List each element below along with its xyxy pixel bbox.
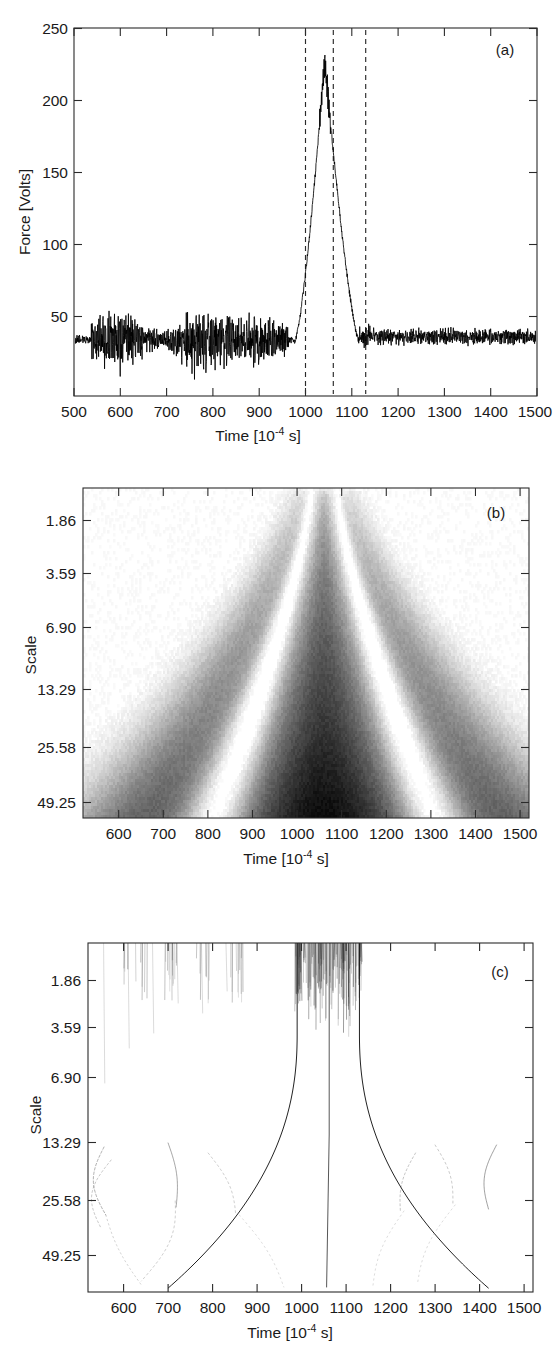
y-tick-label: 25.58	[37, 739, 76, 756]
panel-b-x-tick-labels: 600700800900100011001200130014001500	[106, 825, 538, 842]
x-tick-label: 1200	[369, 825, 404, 842]
panel-c-y-axis-title: Scale	[27, 1096, 44, 1135]
x-tick-label: 700	[155, 1299, 181, 1316]
y-tick-label: 3.59	[46, 565, 76, 582]
x-axis-title-exponent: -4	[275, 425, 284, 437]
x-tick-label: 500	[61, 403, 87, 420]
x-axis-title-exponent: -4	[307, 1322, 316, 1334]
x-tick-label: 1500	[507, 1299, 542, 1316]
panel-a-y-tick-labels: 250 200 150 100 50	[42, 20, 68, 325]
x-tick-label: 900	[240, 825, 266, 842]
y-tick-label: 13.29	[37, 681, 76, 698]
x-axis-title-tail: s]	[316, 1324, 332, 1341]
x-tick-label: 900	[244, 1299, 270, 1316]
x-tick-label: 700	[154, 403, 180, 420]
x-axis-title-main: Time [10	[215, 427, 275, 444]
y-tick-label: 250	[42, 20, 68, 37]
y-tick-label: 50	[51, 308, 69, 325]
x-tick-label: 1400	[462, 1299, 497, 1316]
x-tick-label: 1000	[280, 825, 315, 842]
y-tick-label: 49.25	[37, 794, 76, 811]
x-tick-label: 800	[200, 1299, 226, 1316]
x-axis-title-main: Time [10	[243, 850, 303, 867]
x-tick-label: 800	[200, 403, 226, 420]
x-tick-label: 1000	[284, 1299, 319, 1316]
x-tick-label: 600	[111, 1299, 137, 1316]
panel-b-x-axis-title: Time [10-4 s]	[243, 848, 328, 867]
panel-b-y-axis-title: Scale	[22, 636, 39, 675]
panel-c-svg: 1.86 3.59 6.90 13.29 25.58 49.25 6007008…	[0, 915, 556, 1363]
y-tick-label: 100	[42, 236, 68, 253]
y-tick-label: 6.90	[46, 619, 77, 636]
x-tick-label: 1300	[418, 1299, 453, 1316]
x-tick-label: 700	[150, 825, 176, 842]
y-tick-label: 200	[42, 92, 68, 109]
panel-c-y-tick-labels: 1.86 3.59 6.90 13.29 25.58 49.25	[42, 972, 81, 1264]
x-tick-label: 1100	[325, 825, 359, 842]
x-tick-label: 800	[195, 825, 221, 842]
panel-a-x-tick-labels: 500 600 700 800 900 1000 1100 1200 1300 …	[61, 403, 553, 420]
panel-b-scalogram-image	[83, 488, 530, 819]
panel-c-x-tick-labels: 600700800900100011001200130014001500	[111, 1299, 542, 1316]
panel-a-label: (a)	[496, 41, 514, 58]
x-tick-label: 1100	[329, 1299, 363, 1316]
panel-a-event-marker-lines	[306, 30, 366, 394]
x-tick-label: 1300	[414, 825, 449, 842]
panel-a-svg: 250 200 150 100 50	[0, 0, 556, 455]
panel-a-y-axis-title: Force [Volts]	[16, 169, 33, 255]
panel-a-x-axis-title: Time [10-4 s]	[215, 425, 300, 444]
x-axis-title-tail: s]	[312, 850, 328, 867]
svg-text:Time [10-4 s]: Time [10-4 s]	[243, 848, 328, 867]
x-tick-label: 1400	[458, 825, 493, 842]
y-tick-label: 49.25	[42, 1247, 81, 1264]
x-axis-title-main: Time [10	[247, 1324, 307, 1341]
x-tick-label: 600	[107, 403, 133, 420]
x-tick-label: 1200	[373, 1299, 408, 1316]
svg-text:Time [10-4 s]: Time [10-4 s]	[247, 1322, 332, 1341]
panel-c-x-axis-title: Time [10-4 s]	[247, 1322, 332, 1341]
y-tick-label: 150	[42, 164, 68, 181]
x-tick-label: 1300	[427, 403, 462, 420]
y-tick-label: 3.59	[51, 1019, 81, 1036]
x-tick-label: 1500	[518, 403, 553, 420]
svg-text:Time [10-4 s]: Time [10-4 s]	[215, 425, 300, 444]
x-tick-label: 1400	[473, 403, 508, 420]
y-tick-label: 13.29	[42, 1134, 81, 1151]
y-tick-label: 6.90	[51, 1069, 82, 1086]
x-tick-label: 1500	[503, 825, 538, 842]
x-tick-label: 600	[106, 825, 132, 842]
figure-wavelet-analysis: 250 200 150 100 50	[0, 0, 556, 1363]
panel-b-label: (b)	[487, 504, 505, 521]
panel-b-y-tick-labels: 1.86 3.59 6.90 13.29 25.58 49.25	[37, 512, 76, 811]
x-tick-label: 1000	[288, 403, 323, 420]
y-tick-label: 25.58	[42, 1192, 81, 1209]
panel-b-svg: 1.86 3.59 6.90 13.29 25.58 49.25 6007008…	[0, 460, 556, 880]
x-tick-label: 900	[246, 403, 272, 420]
x-tick-label: 1200	[381, 403, 416, 420]
panel-c-maxima-skeleton	[88, 943, 533, 1292]
panel-c-label: (c)	[491, 963, 509, 980]
x-tick-label: 1100	[335, 403, 369, 420]
y-tick-label: 1.86	[46, 512, 76, 529]
x-axis-title-exponent: -4	[303, 848, 312, 860]
x-axis-title-tail: s]	[284, 427, 300, 444]
y-tick-label: 1.86	[51, 972, 81, 989]
